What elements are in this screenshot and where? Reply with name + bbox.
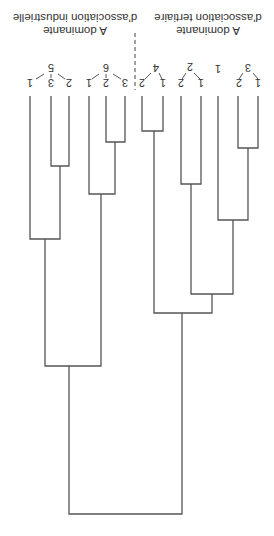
cluster-1: 1 [215, 63, 221, 75]
cluster-4: 4 2 1 [139, 62, 166, 89]
cluster-3-leaf-1: 1 [255, 77, 261, 89]
dendrogram: A dominante d'association industrielle A… [0, 0, 274, 536]
cluster-6-label: 6 [103, 62, 109, 74]
tertiaire-caption-line2: d'association tertiaire [154, 12, 262, 24]
cluster-5-leaf-1: 1 [27, 77, 33, 89]
cluster-4-leaf-1: 1 [160, 77, 166, 89]
cluster-4-label: 4 [153, 62, 159, 74]
cluster-5-label: 5 [48, 62, 54, 74]
industrielle-caption-line1: A dominante [43, 25, 107, 37]
cluster-3-label: 3 [245, 62, 251, 74]
cluster-2: 2 2 1 [178, 61, 204, 89]
cluster-6-leaf-2: 2 [103, 77, 109, 89]
cluster-4-leaf-2: 2 [139, 77, 145, 89]
cluster-3: 3 2 1 [236, 62, 261, 89]
cluster-5: 5 1 3 2 [27, 62, 72, 89]
tertiaire-caption-line1: A dominante [176, 25, 240, 37]
industrielle-caption-line2: d'association industrielle [13, 12, 137, 24]
cluster-2-leaf-1: 1 [198, 77, 204, 89]
cluster-2-label: 2 [187, 61, 193, 73]
cluster-6-leaf-1: 1 [86, 77, 92, 89]
cluster-2-leaf-2: 2 [178, 77, 184, 89]
cluster-5-leaf-3: 3 [48, 77, 54, 89]
cluster-6-leaf-3: 3 [122, 77, 128, 89]
cluster-5-leaf-2: 2 [66, 77, 72, 89]
cluster-1-label: 1 [215, 63, 221, 75]
dendrogram-branches [30, 96, 258, 514]
cluster-6: 6 1 2 3 [86, 62, 128, 89]
cluster-3-leaf-2: 2 [236, 77, 242, 89]
